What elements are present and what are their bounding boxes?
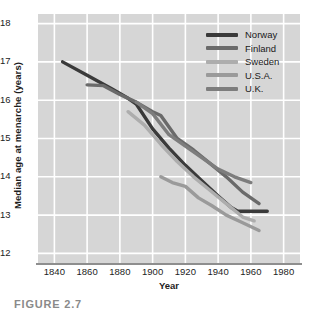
- legend-item-usa: U.S.A.: [206, 69, 279, 83]
- legend-item-norway: Norway: [206, 28, 279, 42]
- y-tick-label: 17: [0, 55, 30, 66]
- legend-swatch-icon: [206, 46, 238, 50]
- legend-label: U.K.: [245, 84, 263, 94]
- legend-label: U.S.A.: [245, 71, 272, 81]
- y-tick-label: 15: [0, 132, 30, 143]
- legend-item-uk: U.K.: [206, 82, 279, 96]
- x-axis-line: [36, 263, 302, 265]
- y-tick-label: 16: [0, 94, 30, 105]
- series-line-usa: [161, 177, 259, 231]
- legend-item-finland: Finland: [206, 42, 279, 56]
- legend-swatch-icon: [206, 33, 238, 37]
- legend-swatch-icon: [206, 87, 238, 91]
- x-axis-title: Year: [38, 280, 300, 291]
- legend-item-sweden: Sweden: [206, 55, 279, 69]
- chart-legend: NorwayFinlandSwedenU.S.A.U.K.: [206, 28, 279, 96]
- figure-caption: FIGURE 2.7: [14, 298, 82, 310]
- series-line-uk: [136, 102, 251, 182]
- x-tick-label: 1980: [261, 266, 307, 277]
- y-tick-label: 12: [0, 247, 30, 258]
- y-tick-label: 13: [0, 209, 30, 220]
- series-line-finland: [87, 85, 259, 204]
- legend-label: Norway: [245, 30, 277, 40]
- y-tick-label: 18: [0, 17, 30, 28]
- legend-label: Finland: [245, 44, 276, 54]
- y-tick-label: 14: [0, 170, 30, 181]
- series-line-sweden: [128, 112, 254, 221]
- legend-swatch-icon: [206, 60, 238, 64]
- legend-label: Sweden: [245, 57, 279, 67]
- legend-swatch-icon: [206, 73, 238, 77]
